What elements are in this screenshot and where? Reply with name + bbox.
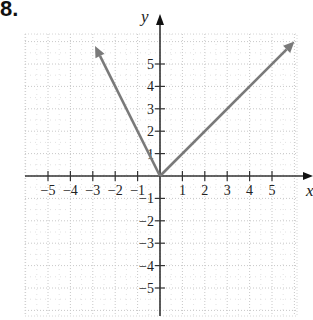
y-tick-label: −1 [139,191,154,206]
y-tick-label: 4 [147,79,154,94]
x-tick-label: 5 [269,183,276,198]
y-axis-label: y [139,7,149,26]
x-tick-label: 3 [224,183,231,198]
x-tick-label: 1 [179,183,186,198]
y-tick-label: 3 [147,102,154,117]
y-axis-arrow-icon [156,14,164,25]
x-tick-label: 2 [201,183,208,198]
y-tick-label: 5 [147,57,154,72]
x-tick-label: −4 [63,183,78,198]
y-tick-label: 2 [147,124,154,139]
graph: −5−4−3−2−112345−5−4−3−2−112345xy [0,0,313,320]
y-tick-label: −2 [139,214,154,229]
x-tick-label: −3 [85,183,100,198]
x-tick-label: 4 [246,183,253,198]
graph-ray-2 [160,49,287,176]
x-axis-arrow-icon [303,172,313,180]
x-tick-label: −2 [108,183,123,198]
y-tick-label: −4 [139,259,154,274]
x-tick-label: −5 [41,183,56,198]
y-tick-label: −5 [139,281,154,296]
x-axis-label: x [305,181,313,200]
y-tick-label: −3 [139,236,154,251]
